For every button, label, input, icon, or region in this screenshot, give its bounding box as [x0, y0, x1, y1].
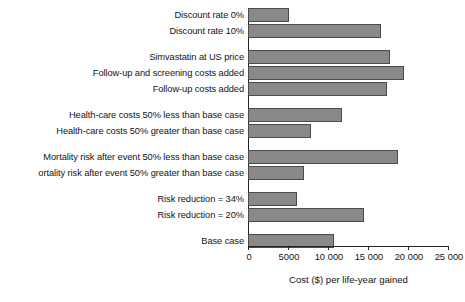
category-label: ortality risk after event 50% greater th…: [38, 168, 244, 179]
bar: [248, 82, 387, 96]
category-label: Discount rate 0%: [174, 10, 244, 21]
x-axis-tick: [328, 246, 329, 250]
category-label: Mortality risk after event 50% less than…: [43, 152, 244, 163]
category-label: Simvastatin at US price: [149, 52, 244, 63]
x-axis-tick: [288, 246, 289, 250]
x-axis-tick: [408, 246, 409, 250]
category-label: Discount rate 10%: [169, 26, 244, 37]
bar: [248, 124, 311, 138]
category-label: Follow-up costs added: [153, 84, 244, 95]
x-axis-tick-label: 10 000: [315, 251, 344, 262]
plot-area: [248, 0, 465, 246]
bar: [248, 208, 364, 222]
bar: [248, 24, 381, 38]
category-label-column: Discount rate 0% Discount rate 10% Simva…: [0, 0, 247, 246]
bar: [248, 66, 404, 80]
bar: [248, 166, 304, 180]
bar: [248, 8, 289, 22]
x-axis-tick: [368, 246, 369, 250]
bar: [248, 192, 297, 206]
x-axis-tick-label: 25 000: [435, 251, 464, 262]
category-label: Risk reduction = 34%: [157, 194, 244, 205]
x-axis-tick: [448, 246, 449, 250]
bar: [248, 108, 342, 122]
bar: [248, 150, 398, 164]
x-axis: 0 5000 10 000 15 000 20 000 25 000 Cost …: [248, 246, 465, 302]
x-axis-tick-label: 0: [246, 251, 251, 262]
x-axis-line: [248, 246, 449, 247]
category-label: Health-care costs 50% less than base cas…: [69, 110, 244, 121]
category-label: Base case: [201, 236, 244, 247]
bar-chart: Discount rate 0% Discount rate 10% Simva…: [0, 0, 465, 302]
x-axis-tick-label: 15 000: [355, 251, 384, 262]
category-label: Risk reduction = 20%: [157, 210, 244, 221]
x-axis-title: Cost ($) per life-year gained: [248, 274, 449, 285]
category-label: Health-care costs 50% greater than base …: [56, 126, 244, 137]
bar: [248, 50, 390, 64]
x-axis-tick-label: 20 000: [395, 251, 424, 262]
x-axis-tick: [248, 246, 249, 250]
category-label: Follow-up and screening costs added: [93, 68, 244, 79]
x-axis-tick-label: 5000: [279, 251, 300, 262]
